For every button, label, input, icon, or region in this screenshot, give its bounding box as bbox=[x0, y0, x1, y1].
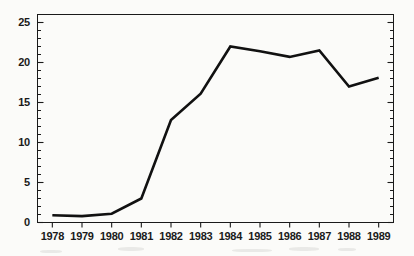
plot-frame bbox=[38, 15, 394, 223]
y-axis-tick-label: 5 bbox=[2, 176, 30, 188]
y-axis-right-major-ticks bbox=[388, 23, 394, 223]
y-axis-major-ticks bbox=[38, 23, 44, 223]
y-axis-tick-label: 20 bbox=[2, 56, 30, 68]
line-chart-canvas bbox=[0, 0, 414, 256]
y-axis-tick-label: 10 bbox=[2, 136, 30, 148]
x-axis-ticks bbox=[52, 223, 378, 228]
y-axis-tick-label: 25 bbox=[2, 16, 30, 28]
y-axis-minor-ticks bbox=[38, 15, 42, 215]
y-axis-right-minor-ticks bbox=[390, 15, 394, 215]
x-axis-tick-label: 1989 bbox=[359, 230, 399, 242]
data-series-line bbox=[52, 47, 378, 217]
chart-figure: 0510152025 19781979198019811982198319841… bbox=[0, 0, 414, 256]
y-axis-tick-label: 15 bbox=[2, 96, 30, 108]
plot-border bbox=[38, 15, 394, 223]
y-axis-tick-label: 0 bbox=[2, 216, 30, 228]
